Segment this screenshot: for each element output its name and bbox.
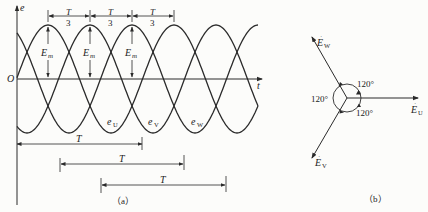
svg-text:E: E — [316, 37, 323, 48]
svg-text:E: E — [124, 47, 131, 58]
phasor-label-e-v: ˙ E V — [314, 154, 327, 169]
svg-text:E: E — [40, 47, 47, 58]
phase-gap-label-2: T 3 — [108, 7, 114, 28]
svg-text:V: V — [154, 121, 159, 128]
svg-text:3: 3 — [150, 18, 155, 28]
svg-text:T: T — [108, 7, 114, 17]
svg-text:T: T — [66, 7, 72, 17]
x-axis-label: t — [257, 80, 260, 91]
caption-b: （b） — [364, 194, 387, 204]
svg-text:m: m — [48, 52, 53, 60]
svg-text:E: E — [314, 157, 321, 168]
svg-text:E: E — [410, 104, 417, 115]
phasor-labels: ˙ E W ˙ E U ˙ E V 120° 120° 120° （b） — [311, 34, 423, 204]
origin-label: O — [7, 73, 14, 84]
svg-text:e: e — [148, 116, 153, 127]
angle-label-vu: 120° — [356, 108, 374, 118]
period-label-3: T — [160, 174, 167, 185]
phasor-e-v — [312, 98, 347, 158]
svg-text:e: e — [191, 116, 196, 127]
amplitude-label-3: E m — [124, 47, 137, 60]
svg-text:m: m — [132, 52, 137, 60]
svg-text:U: U — [113, 121, 118, 128]
svg-text:W: W — [197, 121, 204, 128]
phasor-label-e-w: ˙ E W — [316, 34, 331, 49]
phasor-label-e-u: ˙ E U — [410, 101, 423, 116]
caption-a: （a） — [112, 196, 134, 206]
y-axis-label: e — [20, 2, 25, 13]
svg-text:m: m — [90, 52, 95, 60]
angle-label-wv: 120° — [311, 94, 329, 104]
figure-canvas: e t O T 3 T 3 T 3 E m E m E m e — [0, 0, 428, 212]
waveform-figure — [17, 6, 262, 205]
svg-text:U: U — [418, 109, 423, 116]
amplitude-label-1: E m — [40, 47, 53, 60]
period-label-1: T — [76, 133, 83, 144]
curve-label-e-w: e W — [191, 116, 204, 128]
period-dimensions — [17, 137, 226, 193]
curve-label-e-u: e U — [107, 116, 118, 128]
curve-label-e-v: e V — [148, 116, 159, 128]
svg-text:T: T — [150, 7, 156, 17]
amplitude-label-2: E m — [82, 47, 95, 60]
period-label-2: T — [119, 153, 126, 164]
phase-gap-label-3: T 3 — [150, 7, 156, 28]
angle-label-uw: 120° — [357, 79, 375, 89]
svg-text:3: 3 — [66, 18, 71, 28]
svg-text:E: E — [82, 47, 89, 58]
svg-text:3: 3 — [108, 18, 113, 28]
phase-gap-label-1: T 3 — [66, 7, 72, 28]
svg-text:V: V — [322, 162, 327, 169]
svg-text:W: W — [324, 42, 331, 49]
svg-text:e: e — [107, 116, 112, 127]
